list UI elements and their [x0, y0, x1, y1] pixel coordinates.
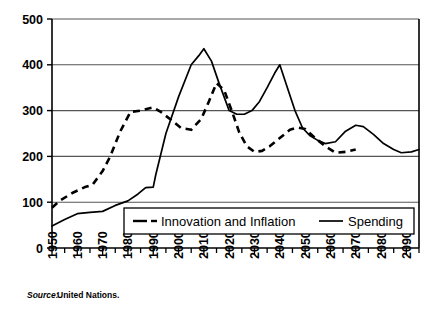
y-tick-label: 100 — [22, 196, 43, 210]
legend-label-spending: Spending — [348, 214, 403, 229]
x-tick-label: 1970 — [96, 231, 110, 259]
x-tick-label: 2090 — [400, 231, 414, 259]
x-tick-label: 1950 — [46, 231, 60, 259]
y-tick-label: 500 — [22, 13, 43, 27]
x-tick-label: 2080 — [375, 231, 389, 259]
y-tick-label: 300 — [22, 104, 43, 118]
y-tick-label: 200 — [22, 150, 43, 164]
x-tick-label: 2000 — [172, 231, 186, 259]
y-tick-label: 400 — [22, 58, 43, 72]
source-note: Source: United Nations. — [27, 290, 119, 300]
x-tick-label: 1960 — [71, 231, 85, 259]
line-chart-svg: 500 400 300 200 100 0 195019601970198019… — [0, 0, 441, 313]
source-text: United Nations. — [57, 290, 119, 300]
chart-figure: 500 400 300 200 100 0 195019601970198019… — [0, 0, 441, 313]
x-tick-label: 1980 — [121, 231, 135, 259]
source-prefix: Source: — [27, 290, 59, 300]
x-tick-label: 2050 — [299, 231, 313, 259]
x-tick-label: 2010 — [197, 231, 211, 259]
x-axis-tick-labels: 1950196019701980199020002010202020302040… — [46, 231, 414, 259]
x-tick-label: 2070 — [349, 231, 363, 259]
legend-label-innovation: Innovation and Inflation — [161, 214, 295, 229]
x-tick-label: 2020 — [223, 231, 237, 259]
y-tick-label: 0 — [36, 242, 43, 256]
x-tick-label: 1990 — [147, 231, 161, 259]
y-axis-tick-labels: 500 400 300 200 100 0 — [22, 13, 43, 256]
chart-legend: Innovation and Inflation Spending — [124, 208, 414, 234]
x-tick-label: 2030 — [248, 231, 262, 259]
x-tick-label: 2040 — [273, 231, 287, 259]
x-tick-label: 2060 — [324, 231, 338, 259]
